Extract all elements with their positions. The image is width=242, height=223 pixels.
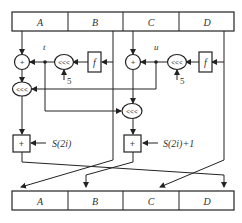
rotate-left-mid-node: <<< [55,55,74,70]
svg-text:+: + [131,58,136,67]
add-left-node: + [15,55,30,70]
svg-text:<<<: <<< [126,108,138,115]
svg-text:+: + [19,139,24,149]
svg-text:<<<: <<< [58,59,70,66]
u-label: u [154,42,159,52]
svg-text:+: + [20,58,25,67]
output-register: A B C D [12,191,234,210]
output-b-label: B [92,196,98,207]
rotate-right-mid-node: <<< [168,55,187,70]
rc6-round-diagram: A B C D [0,0,242,223]
output-d-label: D [202,196,211,207]
key-left-label: S(2i) [52,138,72,150]
input-d-label: D [202,17,211,28]
input-c-label: C [148,17,155,28]
input-a-label: A [36,17,44,28]
output-a-label: A [36,196,44,207]
svg-text:+: + [130,139,135,149]
key-add-right-box: + [124,135,141,152]
svg-text:<<<: <<< [16,86,28,93]
t-label: t [43,42,46,52]
rotate-left-low-node: <<< [13,82,32,96]
add-right-node: + [126,55,141,70]
f-left-box: f [88,52,101,72]
shift-right-label: 5 [180,76,185,86]
key-add-left-box: + [13,135,30,152]
svg-text:<<<: <<< [171,59,183,66]
key-right-label: S(2i)+1 [163,138,194,150]
f-right-box: f [199,52,212,72]
input-b-label: B [92,17,98,28]
output-c-label: C [148,196,155,207]
rotate-center-node: <<< [122,104,142,119]
input-register: A B C D [12,12,234,31]
shift-left-label: 5 [67,76,72,86]
